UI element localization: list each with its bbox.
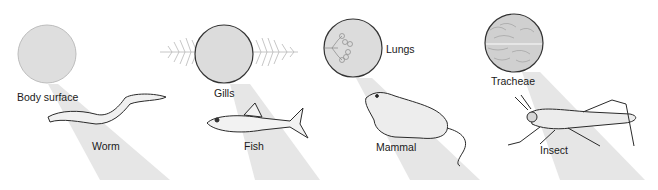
animal-label-insect: Insect	[540, 145, 568, 156]
organ-label-body-surface: Body surface	[17, 92, 78, 103]
body-surface-circle	[18, 25, 76, 83]
organ-label-lungs: Lungs	[386, 44, 415, 55]
respiratory-organs-diagram	[0, 0, 658, 190]
gills-circle	[195, 25, 253, 83]
animal-label-mammal: Mammal	[376, 142, 416, 153]
organ-label-tracheae: Tracheae	[491, 76, 535, 87]
tracheae-circle	[485, 14, 543, 72]
animal-label-fish: Fish	[244, 141, 264, 152]
organ-label-gills: Gills	[214, 88, 234, 99]
animal-label-worm: Worm	[92, 141, 120, 152]
